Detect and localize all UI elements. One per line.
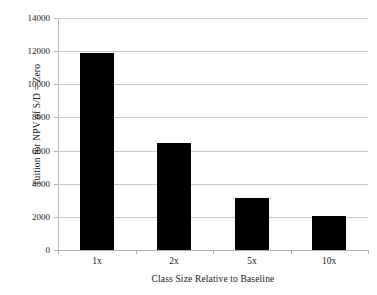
y-tick-label: 14000 xyxy=(0,14,50,23)
y-tick-mark xyxy=(54,117,58,118)
x-tick-mark xyxy=(136,250,137,254)
y-tick-label: 4000 xyxy=(0,180,50,189)
bar-2x xyxy=(157,143,191,250)
y-tick-mark xyxy=(54,184,58,185)
x-tick-mark xyxy=(291,250,292,254)
y-tick-mark xyxy=(54,151,58,152)
x-tick-label: 2x xyxy=(144,256,204,267)
plot-area xyxy=(58,18,368,250)
x-tick-label: 1x xyxy=(67,256,127,267)
y-tick-label: 0 xyxy=(0,246,50,255)
bar-chart: Tuition for NPV of S/D = Zero Class Size… xyxy=(0,0,377,295)
y-tick-mark xyxy=(54,217,58,218)
y-tick-label: 12000 xyxy=(0,47,50,56)
y-tick-label: 8000 xyxy=(0,113,50,122)
y-tick-label: 10000 xyxy=(0,80,50,89)
y-tick-label: 6000 xyxy=(0,147,50,156)
bar-5x xyxy=(235,198,269,250)
y-tick-mark xyxy=(54,18,58,19)
y-tick-mark xyxy=(54,51,58,52)
gridline xyxy=(58,51,368,52)
y-tick-mark xyxy=(54,84,58,85)
x-tick-mark xyxy=(58,250,59,254)
x-tick-label: 10x xyxy=(299,256,359,267)
bar-10x xyxy=(312,216,346,250)
x-tick-mark xyxy=(368,250,369,254)
x-axis-title: Class Size Relative to Baseline xyxy=(58,274,368,284)
x-tick-mark xyxy=(213,250,214,254)
gridline xyxy=(58,18,368,19)
bar-1x xyxy=(80,53,114,250)
y-tick-label: 2000 xyxy=(0,213,50,222)
x-tick-label: 5x xyxy=(222,256,282,267)
